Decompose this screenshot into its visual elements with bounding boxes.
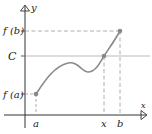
point-b	[118, 29, 123, 34]
ivt-diagram: y x f (b) C f (a) a x b	[0, 0, 152, 134]
x-axis-label: x	[141, 101, 146, 110]
point-x	[102, 54, 107, 59]
point-a	[34, 92, 39, 97]
label-x: x	[101, 118, 107, 129]
y-axis-label: y	[30, 2, 37, 13]
label-fa: f (a)	[2, 89, 24, 100]
label-c: C	[8, 50, 17, 63]
label-b: b	[117, 118, 123, 129]
function-curve	[36, 31, 120, 94]
label-a: a	[33, 118, 39, 129]
label-fb: f (b)	[2, 25, 24, 36]
